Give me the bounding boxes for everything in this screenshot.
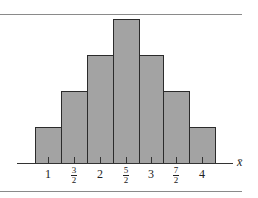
tick-1 <box>48 157 49 163</box>
denominator: 2 <box>72 176 77 185</box>
x-axis-label: x̄ <box>237 155 242 170</box>
tick-7-2 <box>176 157 177 163</box>
bar-3-2 <box>61 91 88 164</box>
tick-5-2 <box>126 157 127 163</box>
tick-label-3: 3 <box>141 168 161 180</box>
bar-5-2 <box>113 19 140 164</box>
tick-3-2 <box>74 157 75 163</box>
tick-4 <box>202 157 203 163</box>
top-rule <box>0 14 242 15</box>
tick-label-2: 2 <box>90 168 110 180</box>
tick-label-5-2: 5 2 <box>116 166 136 185</box>
tick-label-7-2: 7 2 <box>166 166 186 185</box>
tick-2 <box>100 157 101 163</box>
bar-2 <box>87 55 114 164</box>
numerator: 5 <box>124 166 129 175</box>
denominator: 2 <box>174 176 179 185</box>
tick-3 <box>151 157 152 163</box>
tick-label-4: 4 <box>192 168 212 180</box>
bottom-rule <box>0 191 242 192</box>
denominator: 2 <box>124 176 129 185</box>
numerator: 7 <box>174 166 179 175</box>
tick-label-3-2: 3 2 <box>64 166 84 185</box>
tick-label-1: 1 <box>38 168 58 180</box>
bar-7-2 <box>163 91 190 164</box>
x-axis <box>17 163 233 164</box>
bar-3 <box>139 55 164 164</box>
numerator: 3 <box>72 166 77 175</box>
